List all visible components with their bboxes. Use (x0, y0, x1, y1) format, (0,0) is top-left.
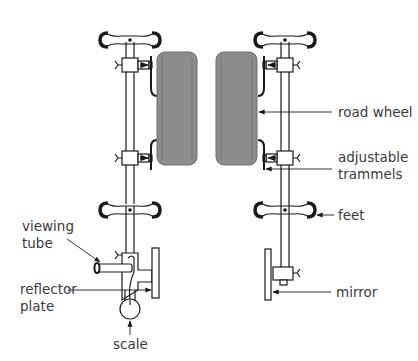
left-upper-foot (100, 33, 160, 47)
label-scale: scale (113, 336, 148, 352)
label-feet: feet (338, 207, 365, 223)
leader-lines (67, 112, 334, 335)
label-tube: tube (22, 235, 53, 251)
left-viewing-head (95, 248, 160, 319)
reflector-plate (152, 248, 159, 298)
right-upper-trammel (258, 56, 300, 96)
viewing-tube (97, 264, 132, 272)
left-lower-trammel (115, 140, 157, 170)
label-viewing: viewing (22, 218, 74, 234)
label-adjustable: adjustable (338, 149, 408, 165)
left-upper-trammel (115, 56, 157, 96)
right-gauge (255, 33, 315, 300)
label-mirror: mirror (336, 284, 378, 300)
mirror (265, 249, 271, 300)
right-lower-foot (255, 203, 315, 217)
label-trammels: trammels (338, 166, 403, 182)
left-gauge (95, 33, 161, 319)
leader-viewing-tube (67, 239, 100, 262)
right-lower-trammel (258, 140, 300, 170)
road-wheel-left (157, 52, 197, 165)
label-reflector: reflector (20, 281, 77, 297)
right-upper-foot (255, 33, 315, 47)
label-road-wheel: road wheel (338, 104, 413, 120)
road-wheel-right (216, 52, 257, 165)
alignment-gauge-diagram: road wheel adjustable trammels feet mirr… (0, 0, 418, 361)
label-plate: plate (20, 298, 54, 314)
left-lower-foot (100, 203, 160, 217)
